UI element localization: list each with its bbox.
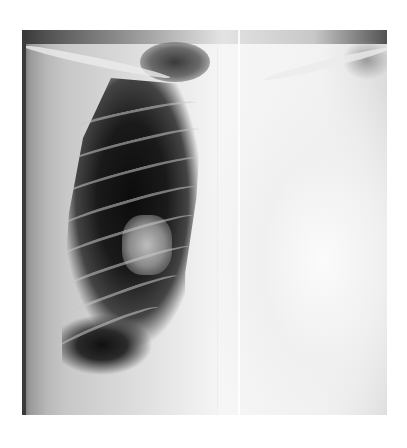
chest-xray-image [22,30,387,415]
vertical-catheter-line [238,30,240,415]
upper-border-shadow [22,30,387,44]
film-edge [22,30,26,415]
midline-shadow [217,30,218,415]
